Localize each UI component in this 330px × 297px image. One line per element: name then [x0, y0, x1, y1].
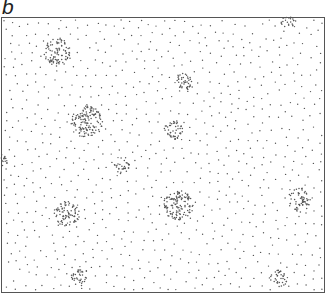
cluster-bottom-right: [270, 270, 287, 288]
point-field: [0, 0, 330, 297]
cluster-lower-left: [54, 201, 80, 227]
cluster-bottom-left: [71, 269, 87, 286]
cluster-center-left-small: [114, 157, 130, 174]
cluster-right: [289, 187, 311, 212]
cluster-center-large: [163, 190, 193, 220]
cluster-top-edge: [281, 16, 297, 27]
cluster-left-large: [70, 105, 103, 137]
cluster-upper-center: [176, 73, 193, 90]
clustered-points: [1, 16, 311, 287]
cluster-top-left: [44, 38, 71, 67]
cluster-center: [164, 120, 183, 140]
